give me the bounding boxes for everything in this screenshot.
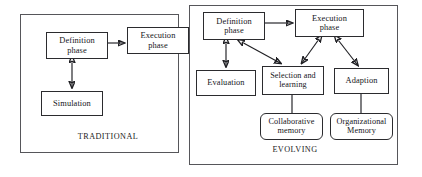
node-label: Definition phase <box>215 17 252 35</box>
node-traditional-execution-phase[interactable]: Execution phase <box>127 27 189 54</box>
diagram-canvas: Definition phase Execution phase Simulat… <box>0 0 422 177</box>
node-label: Execution phase <box>311 14 348 32</box>
node-evolving-evaluation[interactable]: Evaluation <box>196 70 256 96</box>
node-evolving-execution-phase[interactable]: Execution phase <box>295 9 364 37</box>
node-evolving-definition-phase[interactable]: Definition phase <box>203 12 265 40</box>
node-label: Adaption <box>345 76 379 85</box>
node-label: Execution phase <box>140 31 177 49</box>
node-evolving-organizational-memory[interactable]: Organizational Memory <box>330 113 393 140</box>
node-traditional-definition-phase[interactable]: Definition phase <box>46 32 108 59</box>
panel-caption-evolving: EVOLVING <box>245 145 345 154</box>
node-evolving-collaborative-memory[interactable]: Collaborative memory <box>260 113 323 140</box>
node-traditional-simulation[interactable]: Simulation <box>41 91 103 116</box>
node-label: Evaluation <box>206 78 245 87</box>
panel-caption-traditional: TRADITIONAL <box>58 132 158 141</box>
node-label: Definition phase <box>58 36 95 54</box>
node-evolving-selection-and-learning[interactable]: Selection and learning <box>262 66 324 95</box>
node-label: Organizational Memory <box>336 118 388 136</box>
node-evolving-adaption[interactable]: Adaption <box>334 68 389 94</box>
node-label: Simulation <box>52 99 92 108</box>
node-label: Selection and learning <box>269 72 317 90</box>
node-label: Collaborative memory <box>268 118 316 136</box>
